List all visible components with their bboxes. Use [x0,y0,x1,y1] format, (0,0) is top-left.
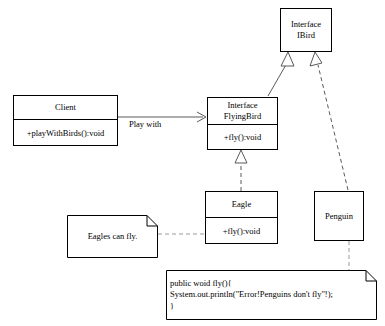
eagle-title: Eagle [206,192,277,217]
penguin-title: Penguin [315,192,363,240]
flyingbird-header: Interface FlyingBird [208,98,277,124]
realization-penguin-ibird-arrowhead [310,52,322,66]
penguin-code-note[interactable]: public woid fly(){ System.out.println("E… [166,270,377,320]
generalization-flyingbird-ibird-line [268,63,287,96]
client-title: Client [14,96,117,119]
ibird-header: Interface IBird [281,9,331,51]
client-operations: +playWithBirds():void [14,119,117,146]
ibird-class-box[interactable]: Interface IBird [280,8,332,52]
eagle-operations: +fly():void [206,217,277,244]
uml-class-diagram: Interface IBird Client +playWithBirds():… [0,0,385,326]
penguin-class-box[interactable]: Penguin [314,191,364,241]
eagle-note[interactable]: Eagles can fly. [67,215,158,258]
penguin-code-note-text: public woid fly(){ System.out.println("E… [166,270,377,320]
realization-penguin-ibird-line [318,65,348,190]
realization-eagle-flyingbird-arrowhead [235,150,247,163]
flyingbird-class-box[interactable]: Interface FlyingBird +fly():void [207,97,278,150]
generalization-flyingbird-ibird-arrowhead [281,52,294,66]
client-class-box[interactable]: Client +playWithBirds():void [13,95,118,146]
flyingbird-operations: +fly():void [208,124,277,150]
association-label-play-with: Play with [129,119,161,129]
eagle-class-box[interactable]: Eagle +fly():void [205,191,278,244]
eagle-note-text: Eagles can fly. [67,215,158,258]
